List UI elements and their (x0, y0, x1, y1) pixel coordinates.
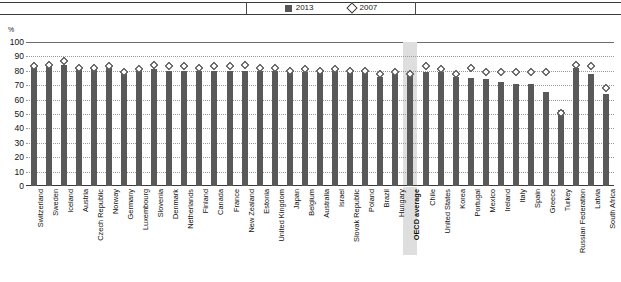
bar-2013-Netherlands (181, 71, 187, 186)
y-tick-label-100: 100 (6, 38, 24, 47)
x-tick-label-mexico: Mexico (489, 189, 496, 212)
bar-2013-Norway (106, 68, 112, 186)
bar-2013-Portugal (468, 78, 474, 186)
x-tick-label-czech-republic: Czech Republic (97, 189, 104, 241)
bar-2013-Germany (121, 74, 127, 186)
legend-item-2007[interactable]: 2007 (348, 4, 378, 12)
filled-square-icon (285, 5, 292, 12)
bar-2013-Denmark (166, 71, 172, 186)
bar-2013-Italy (513, 84, 519, 186)
marker-2007-Canada (210, 62, 218, 70)
x-tick-label-poland: Poland (368, 189, 375, 212)
y-tick-label-0: 0 (6, 182, 24, 191)
marker-2007-Greece (542, 68, 550, 76)
bar-2013-Spain (528, 84, 534, 186)
bar-2013-Chile (423, 72, 429, 186)
bar-2013-Korea (453, 77, 459, 186)
x-tick-label-portugal: Portugal (474, 189, 481, 217)
bar-2013-Australia (317, 72, 323, 186)
marker-2007-Netherlands (180, 62, 188, 70)
bar-2013-Belgium (302, 72, 308, 186)
x-tick-label-japan: Japan (293, 189, 300, 209)
marker-2007-Mexico (482, 68, 490, 76)
bar-2013-Iceland (61, 65, 67, 186)
bar-2013-Hungary (392, 74, 398, 186)
bar-2013-OECD average (407, 75, 413, 186)
bar-2013-Finland (196, 71, 202, 186)
x-axis-labels: SwitzerlandSwedenIcelandAustriaCzech Rep… (26, 187, 614, 282)
y-tick-label-80: 80 (6, 67, 24, 76)
bar-2013-Canada (211, 71, 217, 186)
bar-2013-Brazil (377, 77, 383, 186)
x-tick-label-hungary: Hungary (398, 189, 405, 217)
marker-2007-New Zealand (240, 61, 248, 69)
bar-2013-South Africa (603, 94, 609, 186)
bar-2013-Slovak Republic (347, 72, 353, 186)
y-tick-label-40: 40 (6, 124, 24, 133)
marker-2007-Slovenia (150, 61, 158, 69)
x-tick-label-denmark: Denmark (172, 189, 179, 219)
x-tick-label-spain: Spain (534, 189, 541, 208)
marker-2007-Spain (527, 68, 535, 76)
x-tick-label-russian-federation: Russian Federation (579, 189, 586, 253)
y-tick-label-70: 70 (6, 81, 24, 90)
y-tick-label-20: 20 (6, 153, 24, 162)
bar-2013-Mexico (483, 79, 489, 186)
x-tick-label-australia: Australia (323, 189, 330, 218)
x-tick-label-south-africa: South Africa (609, 189, 616, 229)
bar-2013-United Kingdom (272, 71, 278, 186)
x-tick-label-luxembourg: Luxembourg (142, 189, 149, 230)
bar-2013-Latvia (588, 74, 594, 186)
chart-legend: 20132007 (246, 2, 416, 14)
x-tick-label-ireland: Ireland (504, 189, 511, 212)
x-tick-label-brazil: Brazil (383, 189, 390, 207)
x-tick-label-israel: Israel (338, 189, 345, 207)
bar-2013-Austria (76, 69, 82, 186)
legend-item-2013[interactable]: 2013 (285, 4, 314, 12)
x-tick-label-belgium: Belgium (308, 189, 315, 216)
marker-2007-France (225, 62, 233, 70)
bar-2013-Slovenia (151, 69, 157, 186)
x-tick-label-korea: Korea (459, 189, 466, 209)
y-tick-label-30: 30 (6, 139, 24, 148)
bar-2013-Estonia (257, 71, 263, 186)
bar-2013-Israel (332, 71, 338, 186)
x-tick-label-slovak-republic: Slovak Republic (353, 189, 360, 242)
marker-2007-Denmark (165, 62, 173, 70)
x-tick-label-italy: Italy (519, 189, 526, 203)
chart-container: 20132007 % 1009080706050403020100 Switze… (0, 0, 621, 282)
bar-2013-France (227, 71, 233, 186)
x-tick-label-france: France (233, 189, 240, 212)
marker-2007-Italy (512, 68, 520, 76)
bar-2013-Greece (543, 92, 549, 186)
x-tick-label-slovenia: Slovenia (157, 189, 164, 217)
x-tick-label-canada: Canada (217, 189, 224, 215)
header-rule-bottom (0, 14, 621, 15)
plot-area (26, 42, 614, 186)
x-tick-label-oecd-average: OECD average (413, 189, 420, 240)
legend-label: 2013 (296, 4, 314, 12)
x-tick-label-latvia: Latvia (594, 189, 601, 209)
y-tick-label-60: 60 (6, 96, 24, 105)
bar-2013-Turkey (558, 110, 564, 186)
bar-2013-Switzerland (31, 66, 37, 186)
bar-2013-United States (438, 72, 444, 186)
open-diamond-icon (346, 2, 357, 13)
x-tick-label-turkey: Turkey (564, 189, 571, 211)
x-tick-label-chile: Chile (429, 189, 436, 206)
bar-2013-New Zealand (242, 71, 248, 186)
x-tick-label-united-kingdom: United Kingdom (278, 189, 285, 242)
bar-2013-Poland (362, 72, 368, 186)
bar-2013-Luxembourg (136, 71, 142, 186)
x-tick-label-iceland: Iceland (67, 189, 74, 213)
x-tick-label-sweden: Sweden (52, 189, 59, 216)
y-tick-label-50: 50 (6, 110, 24, 119)
legend-label: 2007 (360, 4, 378, 12)
bar-2013-Sweden (46, 66, 52, 186)
marker-2007-Iceland (59, 56, 67, 64)
x-tick-label-switzerland: Switzerland (37, 189, 44, 227)
y-axis-unit-label: % (8, 26, 14, 33)
bar-2013-Russian Federation (573, 68, 579, 186)
bar-2013-Japan (287, 72, 293, 186)
marker-2007-Chile (421, 62, 429, 70)
